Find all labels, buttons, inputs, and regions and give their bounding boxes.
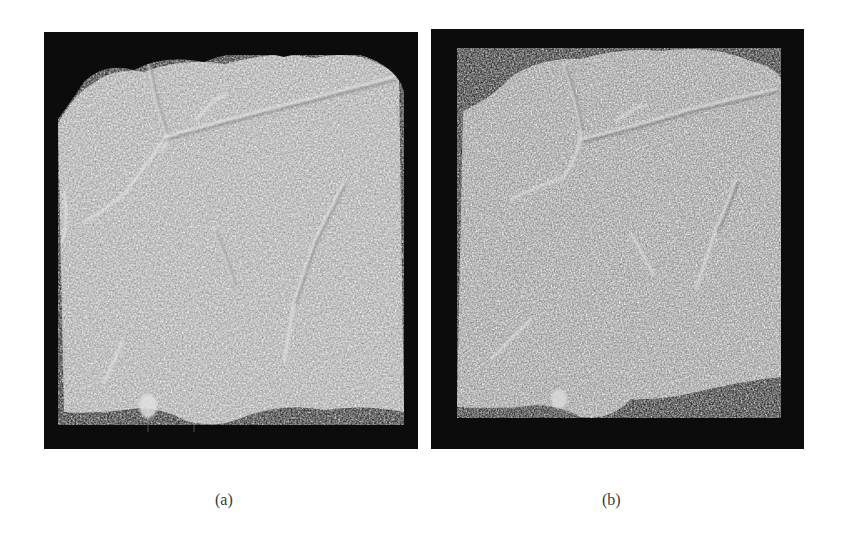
panel-a-caption: (a) — [215, 492, 233, 508]
panel-b-caption: (b) — [602, 492, 621, 508]
specimen-image-b — [431, 29, 804, 449]
specimen-image-a — [44, 32, 418, 449]
figure-panel-a — [44, 32, 418, 449]
figure-panel-b — [431, 29, 804, 449]
